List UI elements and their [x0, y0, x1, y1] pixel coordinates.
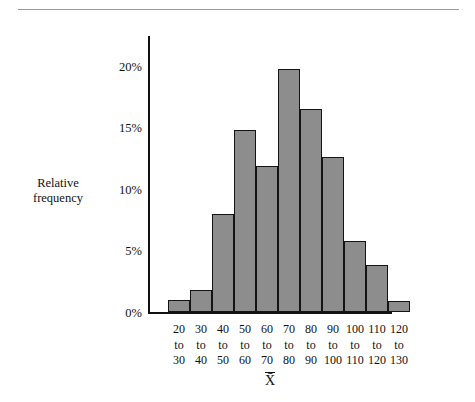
top-divider-rule [18, 9, 459, 10]
y-tick-label: 0% [125, 306, 142, 321]
x-tick-label-line: 120 [383, 322, 415, 338]
y-tick-label: 20% [119, 59, 142, 74]
histogram-bar [344, 241, 366, 312]
histogram-bar [234, 130, 256, 312]
histogram-bar [256, 166, 278, 313]
x-axis-title: X̄ [148, 372, 392, 389]
y-tick-label: 10% [119, 182, 142, 197]
y-tick-label: 5% [125, 244, 142, 259]
plot-area: 0%5%10%15%20% [148, 36, 392, 314]
x-tick-label-line: 130 [383, 353, 415, 369]
y-axis-title: Relative frequency [12, 176, 104, 206]
x-bar-symbol: X̄ [265, 372, 275, 389]
y-axis-title-line-1: Relative [12, 176, 104, 191]
histogram-figure: Relative frequency 0%5%10%15%20% 20to303… [0, 0, 475, 402]
x-tick-label: 120to130 [383, 322, 415, 369]
x-tick-labels-group: 20to3030to4040to5050to6060to7070to8080to… [150, 322, 392, 370]
histogram-bar [366, 265, 388, 312]
histogram-bar [168, 300, 190, 312]
histogram-bar [388, 301, 410, 312]
histogram-bar [212, 214, 234, 312]
bars-group [150, 36, 392, 313]
x-tick-label-line: to [383, 338, 415, 354]
histogram-bar [190, 290, 212, 312]
histogram-bar [300, 109, 322, 312]
y-tick-label: 15% [119, 121, 142, 136]
y-axis-title-line-2: frequency [12, 191, 104, 206]
histogram-bar [322, 157, 344, 312]
histogram-bar [278, 69, 300, 312]
